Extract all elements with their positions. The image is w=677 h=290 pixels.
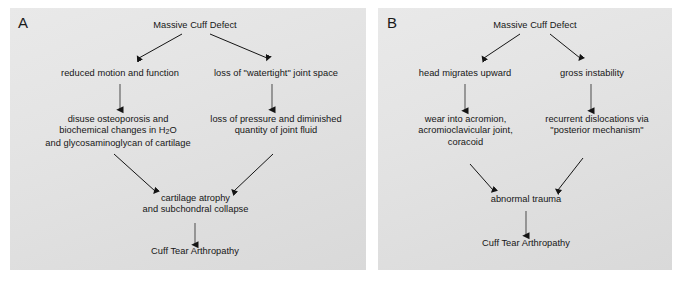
panel-a-disuse-line1: disuse osteoporosis and: [68, 114, 169, 124]
panel-b-node-root: Massive Cuff Defect: [470, 20, 600, 31]
panel-b-node-recurrent-dislocations: recurrent dislocations via "posterior me…: [526, 114, 668, 137]
arrow-root-to-right1: [210, 34, 267, 58]
arrow-left2-to-merge: [114, 154, 155, 191]
arrow-root-to-left1: [484, 34, 520, 58]
figure-root: A Massive Cuff Defect reduced motion and…: [0, 0, 677, 290]
arrow-left2-to-merge: [470, 164, 493, 190]
panel-b-node-abnormal-trauma: abnormal trauma: [466, 194, 586, 205]
panel-a-disuse-line2-pre: biochemical changes in H: [59, 125, 165, 135]
panel-a-node-watertight-loss: loss of "watertight" joint space: [190, 68, 362, 79]
arrow-right2-to-merge: [558, 158, 583, 190]
panel-a-disuse-line2-post: O: [170, 125, 177, 135]
panel-a-letter: A: [18, 14, 28, 31]
panel-a: A Massive Cuff Defect reduced motion and…: [10, 8, 366, 270]
panel-a-node-loss-of-pressure: loss of pressure and diminished quantity…: [190, 114, 362, 137]
arrow-root-to-right1: [550, 34, 580, 58]
arrow-root-to-left1: [139, 34, 182, 58]
panel-a-node-reduced-motion: reduced motion and function: [40, 68, 200, 79]
panel-a-node-disuse-osteoporosis: disuse osteoporosis andbiochemical chang…: [18, 114, 218, 149]
panel-a-node-root: Massive Cuff Defect: [130, 20, 260, 31]
panel-b: B Massive Cuff Defect head migrates upwa…: [378, 8, 672, 270]
panel-a-node-cartilage-atrophy: cartilage atrophy and subchondral collap…: [123, 193, 268, 216]
panel-b-node-gross-instability: gross instability: [536, 68, 648, 79]
panel-b-letter: B: [387, 14, 397, 31]
panel-b-node-outcome: Cuff Tear Arthropathy: [461, 238, 591, 249]
arrow-right2-to-merge: [234, 154, 273, 191]
panel-b-node-head-migrates: head migrates upward: [400, 68, 530, 79]
panel-a-disuse-line3: and glycosaminoglycan of cartilage: [45, 138, 190, 148]
panel-b-node-wear-into-acromion: wear into acromion, acromioclavicular jo…: [388, 114, 543, 148]
panel-a-node-outcome: Cuff Tear Arthropathy: [130, 246, 260, 257]
